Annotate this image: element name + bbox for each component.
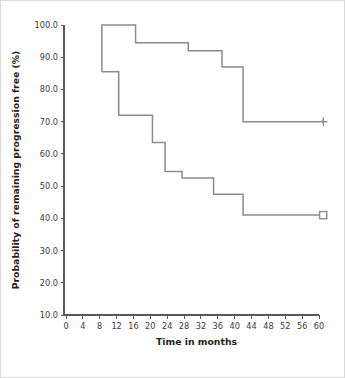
x-tick-label: 48 <box>263 321 273 331</box>
censor-square <box>320 212 327 219</box>
y-tick-label: 90.0 <box>40 52 58 62</box>
x-tick-label: 8 <box>97 321 102 331</box>
x-tick-label: 28 <box>179 321 189 331</box>
y-tick-label: 10.0 <box>40 310 58 320</box>
x-tick-label: 40 <box>229 321 239 331</box>
y-tick-label: 20.0 <box>40 278 58 288</box>
kaplan-meier-figure: 10.020.030.040.050.060.070.080.090.0100.… <box>0 0 345 378</box>
x-tick-label: 52 <box>280 321 290 331</box>
series-lower-curve <box>102 72 319 215</box>
x-tick-label: 36 <box>213 321 223 331</box>
y-axis-title: Probability of remaining progression fre… <box>10 51 21 290</box>
y-tick-label: 30.0 <box>40 246 58 256</box>
x-tick-label: 60 <box>314 321 324 331</box>
x-tick-label: 56 <box>297 321 307 331</box>
x-tick-label: 20 <box>145 321 155 331</box>
x-tick-label: 32 <box>196 321 206 331</box>
x-axis-title: Time in months <box>156 336 238 347</box>
series-upper-curve <box>102 25 319 122</box>
y-tick-label: 70.0 <box>40 117 58 127</box>
x-tick-label: 4 <box>80 321 85 331</box>
y-tick-label: 50.0 <box>40 181 58 191</box>
x-tick-label: 0 <box>63 321 68 331</box>
x-tick-label: 44 <box>246 321 256 331</box>
y-tick-label: 40.0 <box>40 213 58 223</box>
y-tick-label: 60.0 <box>40 149 58 159</box>
y-tick-label: 80.0 <box>40 84 58 94</box>
x-tick-label: 24 <box>162 321 172 331</box>
chart-canvas: 10.020.030.040.050.060.070.080.090.0100.… <box>1 1 345 378</box>
y-tick-label: 100.0 <box>35 20 58 30</box>
x-tick-label: 12 <box>111 321 121 331</box>
x-tick-label: 16 <box>128 321 138 331</box>
